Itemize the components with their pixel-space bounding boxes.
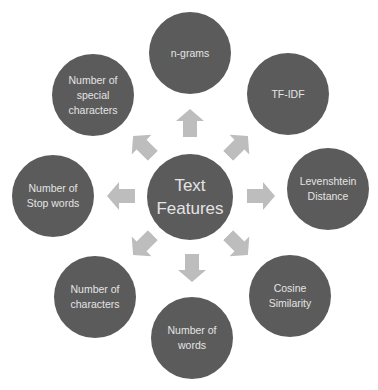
arrow-down-right-icon xyxy=(218,225,258,265)
node-label: TF-IDF xyxy=(271,87,304,102)
arrow-down-icon xyxy=(178,254,206,282)
node-label: Number of characters xyxy=(70,282,119,312)
node-number-of-special-characters: Number of special characters xyxy=(52,54,134,136)
arrow-up-left-icon xyxy=(123,126,163,166)
center-node-text-features: Text Features xyxy=(147,154,233,240)
arrow-down-left-icon xyxy=(123,225,163,265)
node-label: Levenshtein Distance xyxy=(300,174,357,204)
arrow-right-icon xyxy=(247,182,275,210)
node-number-of-characters: Number of characters xyxy=(54,256,136,338)
arrow-up-icon xyxy=(176,109,204,137)
node-label: Cosine Similarity xyxy=(269,281,312,311)
arrow-left-icon xyxy=(107,182,135,210)
node-label: Number of words xyxy=(167,323,216,353)
node-cosine-similarity: Cosine Similarity xyxy=(249,255,331,337)
node-n-grams: n-grams xyxy=(149,12,231,94)
node-number-of-stop-words: Number of Stop words xyxy=(12,155,94,237)
node-label: n-grams xyxy=(171,46,210,61)
node-label: Number of special characters xyxy=(68,73,117,118)
center-node-label: Text Features xyxy=(156,174,223,220)
node-number-of-words: Number of words xyxy=(151,297,233,379)
arrow-up-right-icon xyxy=(218,126,258,166)
node-levenshtein-distance: Levenshtein Distance xyxy=(287,148,369,230)
node-label: Number of Stop words xyxy=(27,181,80,211)
node-tf-idf: TF-IDF xyxy=(247,53,329,135)
